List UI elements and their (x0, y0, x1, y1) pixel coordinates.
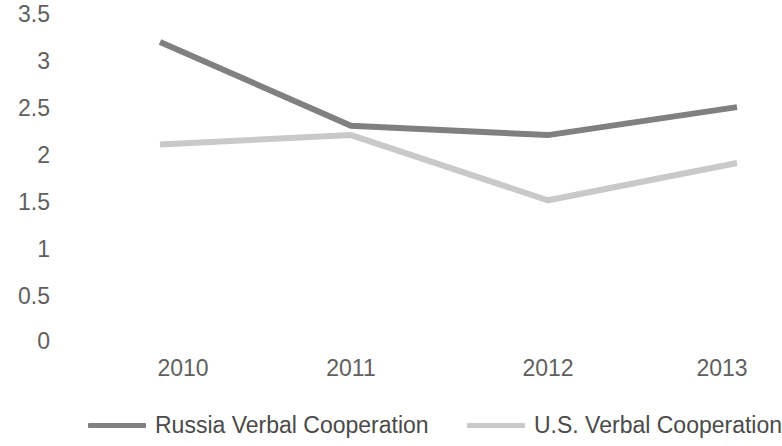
legend-item-russia-verbal-cooperation[interactable]: Russia Verbal Cooperation (88, 404, 429, 446)
legend-item-us-verbal-cooperation[interactable]: U.S. Verbal Cooperation (467, 404, 782, 446)
legend-color-swatch-icon (467, 423, 525, 428)
chart-legend: Russia Verbal Cooperation U.S. Verbal Co… (0, 404, 769, 446)
x-axis-tick-label: 2013 (696, 355, 747, 381)
x-axis-tick-label: 2010 (157, 355, 208, 381)
legend-color-swatch-icon (88, 423, 146, 428)
series-line-us-verbal-cooperation (160, 135, 737, 200)
series-line-russia-verbal-cooperation (160, 42, 737, 135)
series-canvas (0, 0, 769, 360)
plot-area (0, 0, 769, 360)
legend-item-label: Russia Verbal Cooperation (155, 412, 429, 438)
x-axis: 2010 2011 2012 2013 (0, 355, 769, 395)
x-axis-tick-label: 2012 (522, 355, 573, 381)
x-axis-tick-label: 2011 (326, 355, 375, 381)
legend-item-label: U.S. Verbal Cooperation (534, 412, 782, 438)
